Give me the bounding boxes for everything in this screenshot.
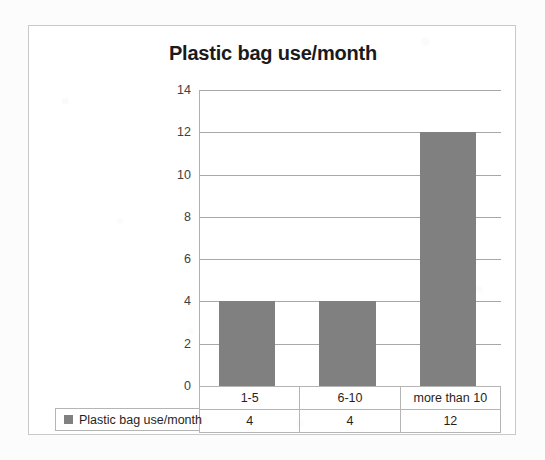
- bar-slot: [300, 90, 400, 386]
- chart-title: Plastic bag use/month: [29, 42, 517, 65]
- y-axis-tick-label: 6: [184, 252, 191, 266]
- table-cell-value-0: 4: [200, 410, 300, 433]
- legend-series-label: Plastic bag use/month: [79, 413, 202, 427]
- table-cell-value-1: 4: [300, 410, 400, 433]
- chart-frame: Plastic bag use/month 02468101214 1-5 6-…: [28, 25, 516, 435]
- y-axis-tick-label: 10: [177, 168, 191, 182]
- y-axis-tick-label: 2: [184, 337, 191, 351]
- bar-slot: [401, 90, 501, 386]
- table-row-categories: 1-5 6-10 more than 10: [200, 387, 501, 410]
- y-axis-tick-label: 14: [177, 83, 191, 97]
- bar-6-10[interactable]: [319, 301, 375, 386]
- y-axis-tick-label: 8: [184, 210, 191, 224]
- scanned-page: Plastic bag use/month 02468101214 1-5 6-…: [0, 0, 545, 460]
- table-row-values: 4 4 12: [200, 410, 501, 433]
- y-axis-tick-label: 12: [177, 125, 191, 139]
- table-cell-value-2: 12: [400, 410, 500, 433]
- y-axis-tick-label: 0: [184, 379, 191, 393]
- bar-more than 10[interactable]: [420, 132, 476, 386]
- data-table: 1-5 6-10 more than 10 4 4 12: [199, 386, 501, 433]
- table-cell-category-0: 1-5: [200, 387, 300, 410]
- legend-swatch-icon: [64, 415, 73, 424]
- plot-area: 02468101214: [199, 90, 501, 386]
- legend: Plastic bag use/month: [55, 408, 199, 431]
- y-axis-tick-label: 4: [184, 294, 191, 308]
- table-cell-category-1: 6-10: [300, 387, 400, 410]
- table-cell-category-2: more than 10: [400, 387, 500, 410]
- bar-1-5[interactable]: [219, 301, 275, 386]
- bar-slot: [200, 90, 300, 386]
